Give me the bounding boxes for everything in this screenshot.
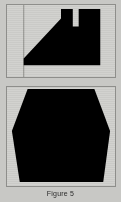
- notched-wedge-silhouette: [24, 9, 101, 65]
- top-panel-drawing: [7, 5, 115, 77]
- hexagon-silhouette: [12, 89, 110, 182]
- figure-caption: Figure 5: [0, 189, 121, 198]
- figure-panel-top: [6, 4, 116, 78]
- bottom-panel-drawing: [7, 87, 115, 186]
- figure-container: Figure 5: [0, 0, 121, 202]
- figure-panel-bottom: [6, 86, 116, 187]
